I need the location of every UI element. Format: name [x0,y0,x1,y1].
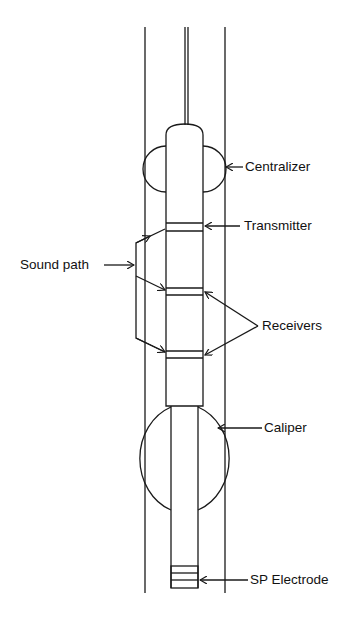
centralizer [143,146,226,192]
label-transmitter: Transmitter [244,219,312,233]
caliper [140,407,229,510]
tool-body [166,124,203,406]
label-centralizer: Centralizer [245,160,310,174]
label-sp-electrode: SP Electrode [250,573,329,587]
label-sound-path: Sound path [20,258,89,272]
label-caliper: Caliper [264,421,307,435]
sp-electrode [171,566,198,588]
logging-tool-diagram [0,0,359,619]
label-receivers: Receivers [262,319,322,333]
